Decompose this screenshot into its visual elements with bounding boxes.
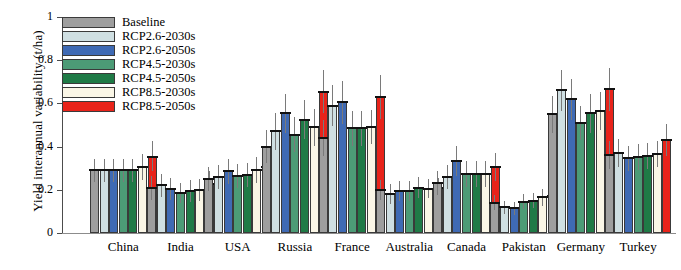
error-bar-cap xyxy=(299,119,310,121)
error-bar-cap xyxy=(404,190,415,192)
x-tick-label: France xyxy=(334,239,369,255)
legend-swatch xyxy=(62,59,115,70)
y-tick-label: 0.8 xyxy=(19,52,53,67)
legend-label: RCP2.6-2050s xyxy=(122,45,195,56)
error-bar-cap xyxy=(280,112,291,114)
legend-item[interactable]: RCP4.5-2030s xyxy=(62,58,195,71)
error-bar-cap xyxy=(547,113,558,115)
x-tick-label: India xyxy=(167,239,194,255)
x-tick-label: Turkey xyxy=(620,239,657,255)
error-bar-cap xyxy=(642,155,653,157)
y-tick-label: 0.6 xyxy=(19,95,53,110)
bar[interactable] xyxy=(557,90,566,233)
error-bar-cap xyxy=(442,176,453,178)
x-tick-label: Canada xyxy=(447,239,486,255)
legend-item[interactable]: RCP4.5-2050s xyxy=(62,72,195,85)
error-bar-cap xyxy=(566,98,577,100)
error-bar-cap xyxy=(127,169,138,171)
legend-label: RCP8.5-2030s xyxy=(122,87,195,98)
error-bar-cap xyxy=(203,178,214,180)
y-tick-mark xyxy=(57,190,62,191)
legend-label: RCP2.6-2030s xyxy=(122,31,195,42)
error-bar-cap xyxy=(451,160,462,162)
legend-label: RCP4.5-2030s xyxy=(122,59,195,70)
error-bar-cap xyxy=(327,105,338,107)
error-bar-cap xyxy=(575,122,586,124)
bar-group xyxy=(605,17,672,233)
error-bar-cap xyxy=(652,153,663,155)
x-tick-label: Pakistan xyxy=(502,239,546,255)
error-bar-cap xyxy=(156,184,167,186)
legend-item[interactable]: Baseline xyxy=(62,16,195,29)
y-tick-label: 0.4 xyxy=(19,139,53,154)
legend-label: RCP8.5-2050s xyxy=(122,101,195,112)
error-bar-cap xyxy=(261,146,272,148)
y-tick-mark xyxy=(57,147,62,148)
error-bar-cap xyxy=(318,137,329,139)
error-bar-cap xyxy=(528,200,539,202)
error-bar-cap xyxy=(242,174,253,176)
legend-swatch xyxy=(62,31,115,42)
legend-swatch xyxy=(62,73,115,84)
error-bar-cap xyxy=(289,134,300,136)
x-tick-label: China xyxy=(108,239,139,255)
legend-swatch xyxy=(62,101,115,112)
x-tick-label: Australia xyxy=(385,239,433,255)
error-bar-cap xyxy=(604,154,615,156)
error-bar-cap xyxy=(213,176,224,178)
error-bar-cap xyxy=(585,112,596,114)
chart-legend: BaselineRCP2.6-2030sRCP2.6-2050sRCP4.5-2… xyxy=(62,16,195,113)
y-tick-label: 0 xyxy=(19,225,53,240)
error-bar-cap xyxy=(509,207,520,209)
error-bar-cap xyxy=(165,188,176,190)
legend-label: Baseline xyxy=(122,17,165,28)
legend-swatch xyxy=(62,87,115,98)
x-tick-label: Germany xyxy=(557,239,605,255)
legend-item[interactable]: RCP2.6-2030s xyxy=(62,30,195,43)
error-bar-cap xyxy=(489,202,500,204)
legend-swatch xyxy=(62,45,115,56)
error-bar-cap xyxy=(223,170,234,172)
x-axis-line xyxy=(62,233,676,234)
error-bar-cap xyxy=(432,182,443,184)
error-bar-cap xyxy=(337,101,348,103)
error-bar-cap xyxy=(613,152,624,154)
error-bar-cap xyxy=(661,139,672,141)
error-bar-cap xyxy=(146,187,157,189)
y-axis-label: Yield interannual variability (t/ha) xyxy=(30,11,46,231)
error-bar-cap xyxy=(385,193,396,195)
error-bar-cap xyxy=(375,189,386,191)
legend-item[interactable]: RCP2.6-2050s xyxy=(62,44,195,57)
chart-root: Yield interannual variability (t/ha) 00.… xyxy=(0,0,681,270)
legend-label: RCP4.5-2050s xyxy=(122,73,195,84)
legend-item[interactable]: RCP8.5-2030s xyxy=(62,86,195,99)
y-tick-label: 1 xyxy=(19,9,53,24)
error-bar-cap xyxy=(175,192,186,194)
x-tick-label: USA xyxy=(225,239,251,255)
error-bar-cap xyxy=(556,89,567,91)
legend-swatch xyxy=(62,17,115,28)
error-bar-cap xyxy=(270,130,281,132)
x-tick-label: Russia xyxy=(278,239,313,255)
y-tick-mark xyxy=(57,233,62,234)
y-tick-label: 0.2 xyxy=(19,182,53,197)
legend-item[interactable]: RCP8.5-2050s xyxy=(62,100,195,113)
